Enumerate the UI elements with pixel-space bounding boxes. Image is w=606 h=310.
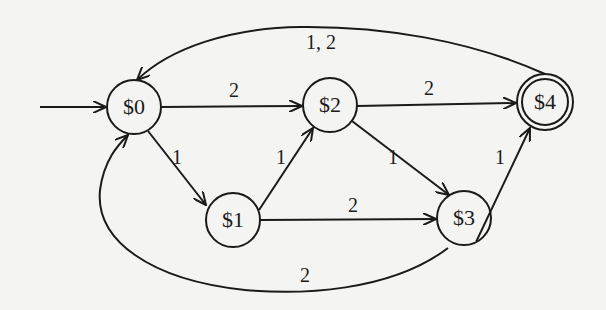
edge-label-s3-s0: 2: [300, 265, 310, 285]
edge-label-s3-s4: 1: [495, 147, 505, 167]
edge-s1-s2: [259, 128, 313, 210]
edge-s2-s4: [357, 103, 516, 106]
edge-label-s1-s2: 1: [276, 147, 286, 167]
edge-label-s0-s1: 1: [172, 147, 182, 167]
edge-s4-s0: [137, 27, 545, 80]
edge-s0-s1: [148, 131, 206, 205]
edge-s1-s3: [260, 219, 436, 220]
edge-s2-s3: [352, 121, 449, 195]
edge-label-s0-s2: 2: [229, 80, 239, 100]
state-s1-label: $1: [222, 209, 244, 231]
edge-s0-s2: [161, 106, 302, 107]
state-s2-label: $2: [319, 94, 341, 116]
edge-label-s2-s3: 1: [388, 147, 398, 167]
state-s4-label: $4: [534, 91, 556, 113]
edge-s3-s4: [477, 128, 530, 241]
automaton-diagram: $0 $1 $2 $3 $4 2 1 1 2 2 1 1 2 1, 2: [0, 0, 606, 310]
edge-label-s1-s3: 2: [348, 195, 358, 215]
edge-label-s4-s0: 1, 2: [306, 32, 336, 52]
state-s3-label: $3: [453, 207, 475, 229]
edge-label-s2-s4: 2: [424, 78, 434, 98]
state-s0-label: $0: [123, 96, 145, 118]
